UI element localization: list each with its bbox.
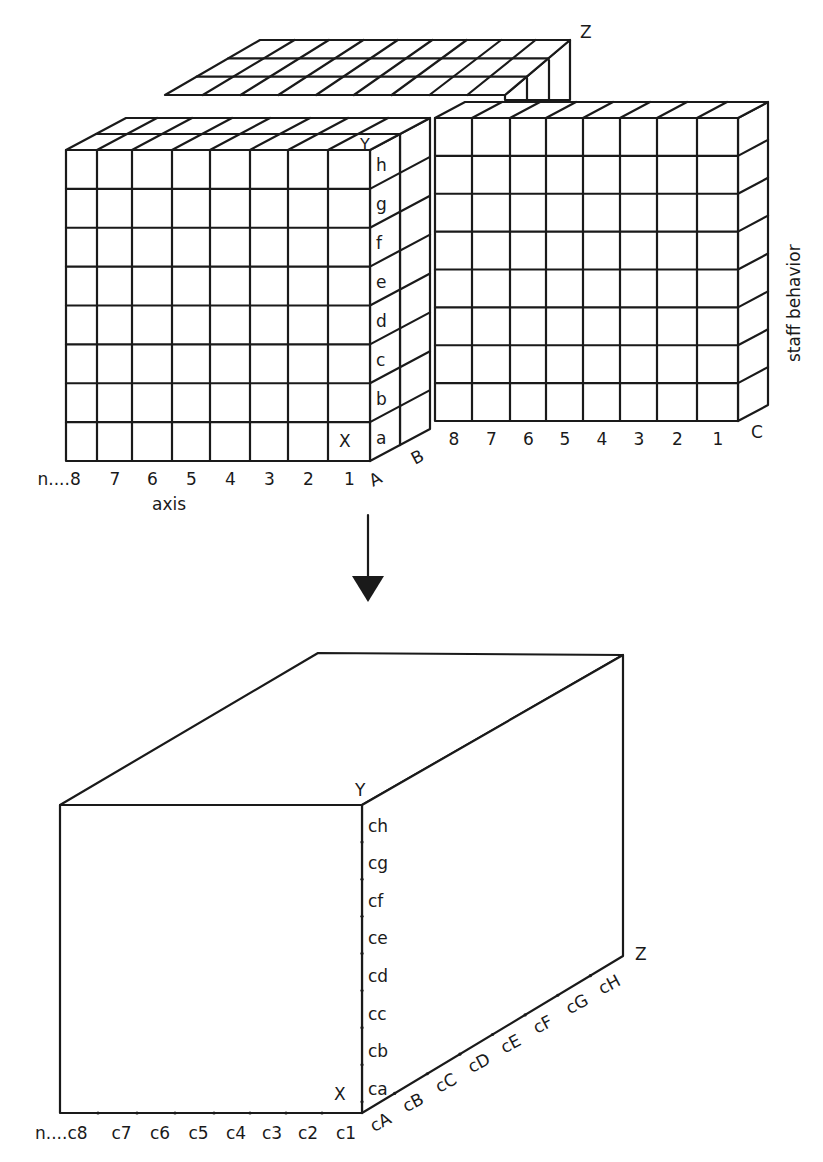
y-axis-tick-label: c [376, 350, 385, 370]
cube-front-face [60, 805, 362, 1113]
z-tick-mark [556, 994, 559, 997]
right-block-tick-label: 4 [597, 429, 608, 449]
y-axis-tick-label: d [376, 311, 387, 331]
bottom-x-axis-label: X [334, 1084, 346, 1104]
top-x-axis-title: axis [152, 494, 186, 514]
cube-z-tick-label: cH [595, 970, 624, 998]
top-y-axis-label: Y [359, 135, 370, 154]
bottom-y-axis-label: Y [354, 780, 366, 800]
x-axis-tick-label: 6 [147, 469, 158, 489]
x-tick-mark [135, 1111, 138, 1114]
x-tick-mark [284, 1111, 287, 1114]
x-tick-mark [320, 1111, 323, 1114]
z-tick-mark [458, 1053, 461, 1056]
cube-x-tick-label: c1 [336, 1123, 356, 1143]
y-axis-tick-label: b [376, 389, 387, 409]
x-axis-tick-label: 2 [303, 469, 314, 489]
x-axis-tick-label: 7 [110, 469, 121, 489]
top-right-block [435, 102, 768, 421]
x-axis-tick-label: 4 [225, 469, 236, 489]
z-tick-mark [589, 974, 592, 977]
cube-z-tick-label: cG [562, 990, 591, 1018]
cube-z-tick-label: cF [530, 1011, 556, 1038]
cube-y-tick-label: cf [368, 891, 384, 911]
cube-y-tick-label: ca [368, 1079, 388, 1099]
cube-y-tick-label: ch [368, 816, 388, 836]
top-z-axis-label: Z [580, 22, 592, 42]
x-tick-mark [96, 1111, 99, 1114]
x-tick-mark [173, 1111, 176, 1114]
cube-x-tick-label: c5 [189, 1123, 209, 1143]
x-axis-tick-label: 3 [264, 469, 275, 489]
top-figure-grid-blocks: Z Y X axis staff behavior A B C 87654321… [38, 22, 805, 514]
y-tick-mark [360, 1100, 363, 1103]
cube-z-tick-label: cE [497, 1030, 524, 1057]
y-tick-mark [360, 878, 363, 881]
z-tick-mark [426, 1072, 429, 1075]
y-axis-tick-label: g [376, 194, 387, 214]
right-block-tick-label: 3 [634, 429, 645, 449]
cube-y-tick-label: cg [368, 853, 388, 873]
cube-z-tick-label: cA [366, 1108, 394, 1136]
x-axis-tick-label: 1 [344, 469, 355, 489]
cube-y-tick-label: cb [368, 1041, 388, 1061]
z-tick-mark [491, 1033, 494, 1036]
cube-y-tick-label: ce [368, 928, 388, 948]
y-axis-tick-label: e [376, 272, 386, 292]
top-back-slab [165, 40, 570, 100]
top-staff-behavior-title: staff behavior [784, 244, 804, 362]
right-block-tick-label: 5 [560, 429, 571, 449]
transform-arrow [352, 515, 384, 602]
cube-z-tick-label: cC [432, 1069, 460, 1097]
top-depth-label-a: A [365, 467, 385, 490]
cube-x-tick-label: c4 [226, 1123, 246, 1143]
y-axis-tick-label: a [376, 428, 386, 448]
y-tick-mark [360, 1026, 363, 1029]
right-block-tick-label: 8 [449, 429, 460, 449]
cube-y-tick-label: cd [368, 966, 388, 986]
z-tick-mark [524, 1013, 527, 1016]
x-tick-mark [212, 1111, 215, 1114]
y-axis-tick-label: h [376, 155, 387, 175]
cube-z-tick-label: cB [399, 1089, 427, 1117]
cube-x-tick-label: c7 [112, 1123, 132, 1143]
arrow-down-icon [352, 576, 384, 602]
x-axis-tick-label: 5 [186, 469, 197, 489]
top-depth-label-b: B [407, 445, 427, 468]
diagram-canvas: Z Y X axis staff behavior A B C 87654321… [0, 0, 823, 1162]
cube-x-tick-label: n....c8 [35, 1123, 88, 1143]
cube-x-tick-label: c6 [150, 1123, 170, 1143]
top-figure-grid-lines [66, 40, 768, 461]
y-tick-mark [360, 841, 363, 844]
y-tick-mark [360, 989, 363, 992]
y-tick-mark [360, 1063, 363, 1066]
cube-z-tick-label: cD [464, 1049, 493, 1077]
bottom-figure-cube: Y Z X chcgcfcecdcccbcan....c8c7c6c5c4c3c… [35, 653, 647, 1143]
right-block-tick-label: 7 [486, 429, 497, 449]
x-tick-mark [248, 1111, 251, 1114]
bottom-z-axis-label: Z [635, 944, 647, 964]
right-block-tick-label: 1 [713, 429, 724, 449]
z-tick-mark [393, 1092, 396, 1095]
y-tick-mark [360, 915, 363, 918]
bottom-cube-edges [60, 653, 623, 1115]
cube-x-tick-label: c2 [298, 1123, 318, 1143]
cube-y-tick-label: cc [368, 1004, 387, 1024]
top-depth-label-c: C [751, 422, 763, 442]
cube-x-tick-label: c3 [262, 1123, 282, 1143]
y-tick-mark [360, 952, 363, 955]
top-x-axis-label: X [339, 431, 351, 451]
y-axis-tick-label: f [376, 233, 383, 253]
right-block-tick-label: 6 [523, 429, 534, 449]
x-axis-tick-label: n....8 [38, 469, 81, 489]
right-block-tick-label: 2 [672, 429, 683, 449]
